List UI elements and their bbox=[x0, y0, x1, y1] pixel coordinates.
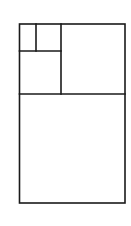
golden-rectangle-diagram bbox=[0, 0, 131, 226]
